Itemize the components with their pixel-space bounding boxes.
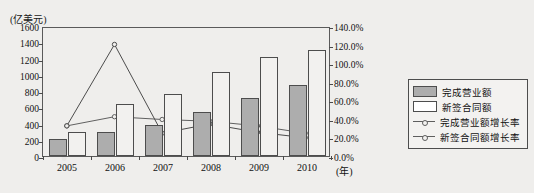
x-axis-tick-label: 2006 bbox=[105, 162, 125, 173]
x-axis-unit-label: (年) bbox=[336, 163, 353, 178]
bar-contracts bbox=[116, 104, 134, 156]
y-axis-tick-mark bbox=[39, 93, 43, 94]
y-axis-tick-mark bbox=[39, 126, 43, 127]
y-axis-tick-mark bbox=[39, 61, 43, 62]
bar-revenue bbox=[193, 112, 211, 156]
y2-axis-tick-mark bbox=[329, 47, 333, 48]
y2-axis-tick-label: 40.0% bbox=[334, 116, 359, 126]
legend-label-2: 完成营业额增长率 bbox=[440, 115, 520, 129]
bar-revenue bbox=[289, 85, 307, 157]
y-axis-tick-mark bbox=[39, 44, 43, 45]
bar-contracts bbox=[164, 94, 182, 156]
legend-line-marker-icon bbox=[413, 132, 435, 141]
y-axis-tick-mark bbox=[39, 142, 43, 143]
line-data-point bbox=[65, 124, 69, 128]
y2-axis-tick-label: 0.0% bbox=[334, 153, 354, 163]
x-axis-tick-label: 2010 bbox=[297, 162, 317, 173]
x-axis-tick-mark bbox=[283, 156, 284, 160]
x-axis-tick-mark bbox=[139, 156, 140, 160]
y2-axis-tick-mark bbox=[329, 102, 333, 103]
y2-axis-tick-label: 80.0% bbox=[334, 79, 359, 89]
x-axis-tick-mark bbox=[331, 156, 332, 160]
x-axis-tick-mark bbox=[187, 156, 188, 160]
chart-legend: 完成营业额 新签合同额 完成营业额增长率 新签合同额增长率 bbox=[408, 79, 528, 149]
y-axis-tick-label: 1600 bbox=[20, 23, 39, 33]
x-axis-tick-label: 2008 bbox=[201, 162, 221, 173]
line-data-point bbox=[112, 42, 116, 46]
x-axis-tick-label: 2005 bbox=[57, 162, 77, 173]
legend-item-2[interactable]: 完成营业额增长率 bbox=[413, 114, 523, 129]
plot-area: 020040060080010001200140016000.0%20.0%40… bbox=[42, 27, 330, 157]
y2-axis-tick-label: 20.0% bbox=[334, 134, 359, 144]
y-axis-tick-label: 400 bbox=[25, 121, 39, 131]
y2-axis-tick-mark bbox=[329, 121, 333, 122]
legend-swatch-filled-icon bbox=[413, 86, 437, 97]
y-axis-tick-mark bbox=[39, 109, 43, 110]
bar-contracts bbox=[212, 72, 230, 156]
y-axis-tick-label: 600 bbox=[25, 104, 39, 114]
legend-swatch-hollow-icon bbox=[413, 101, 437, 112]
legend-label-1: 新签合同额 bbox=[442, 100, 492, 114]
y2-axis-tick-label: 140.0% bbox=[334, 23, 363, 33]
y2-axis-tick-label: 60.0% bbox=[334, 97, 359, 107]
y2-axis-tick-mark bbox=[329, 65, 333, 66]
line-series-layer bbox=[43, 28, 329, 156]
bar-revenue bbox=[145, 125, 163, 156]
legend-label-3: 新签合同额增长率 bbox=[440, 130, 520, 144]
y-axis-tick-label: 200 bbox=[25, 137, 39, 147]
y2-axis-tick-mark bbox=[329, 28, 333, 29]
bar-revenue bbox=[241, 98, 259, 156]
y-axis-tick-label: 1400 bbox=[20, 39, 39, 49]
legend-item-3[interactable]: 新签合同额增长率 bbox=[413, 129, 523, 144]
legend-item-0[interactable]: 完成营业额 bbox=[413, 84, 523, 99]
legend-line-marker-icon bbox=[413, 117, 435, 126]
x-axis-tick-mark bbox=[235, 156, 236, 160]
y2-axis-tick-mark bbox=[329, 84, 333, 85]
y-axis-tick-mark bbox=[39, 77, 43, 78]
x-axis-tick-label: 2009 bbox=[249, 162, 269, 173]
y-axis-tick-label: 800 bbox=[25, 88, 39, 98]
bar-contracts bbox=[68, 132, 86, 156]
bar-revenue bbox=[97, 132, 115, 156]
y2-axis-tick-label: 100.0% bbox=[334, 60, 363, 70]
x-axis-tick-mark bbox=[43, 156, 44, 160]
y-axis-tick-label: 1200 bbox=[20, 56, 39, 66]
x-axis-tick-mark bbox=[91, 156, 92, 160]
bar-contracts bbox=[260, 57, 278, 156]
bar-revenue bbox=[49, 139, 67, 156]
legend-label-0: 完成营业额 bbox=[442, 85, 492, 99]
y2-axis-tick-label: 120.0% bbox=[334, 42, 363, 52]
legend-item-1[interactable]: 新签合同额 bbox=[413, 99, 523, 114]
bar-contracts bbox=[308, 50, 326, 156]
y2-axis-tick-mark bbox=[329, 139, 333, 140]
x-axis-tick-label: 2007 bbox=[153, 162, 173, 173]
y-axis-tick-label: 1000 bbox=[20, 72, 39, 82]
chart-container: (亿美元) 020040060080010001200140016000.0%2… bbox=[0, 0, 534, 193]
